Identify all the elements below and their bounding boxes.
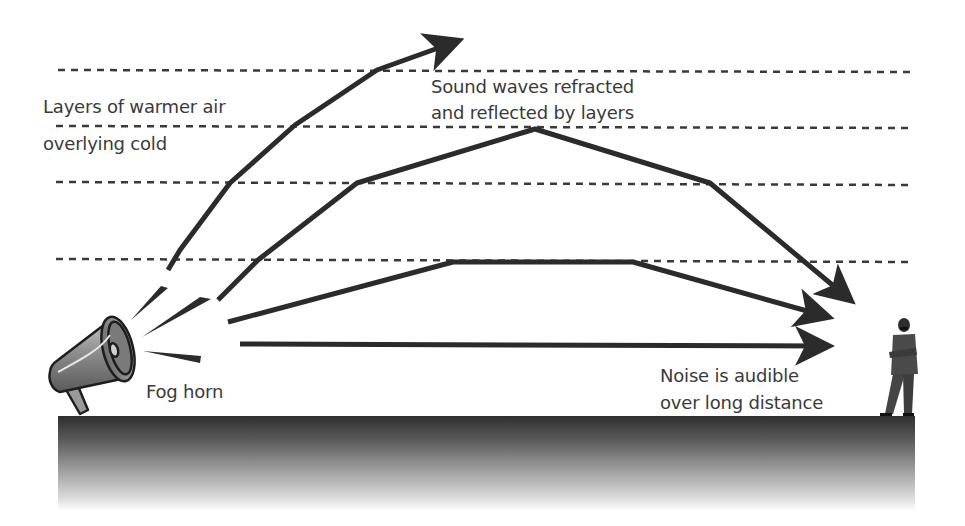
refraction-label-line2: and reflected by layers: [431, 99, 634, 126]
air-layer-line-2: [56, 126, 912, 128]
wave-arrow-escaping: [168, 42, 455, 270]
wave-arrow-reflected-low: [228, 262, 825, 322]
result-label-line2: over long distance: [660, 389, 823, 416]
wave-arrow-direct: [240, 344, 825, 346]
sound-refraction-diagram: Layers of warmer air overlying cold Soun…: [0, 0, 965, 526]
fog-horn-label: Fog horn: [146, 378, 223, 405]
person-figure: [880, 318, 918, 416]
air-layer-line-1: [58, 70, 912, 72]
result-label-line1: Noise is audible: [660, 362, 799, 389]
sound-emission-wedges: [131, 286, 211, 363]
wedge-3: [143, 351, 201, 363]
warm-layers-label-line1: Layers of warmer air: [43, 93, 225, 120]
warm-layers-label-line2: overlying cold: [43, 130, 167, 157]
wedge-2: [142, 297, 211, 337]
megaphone-icon: [49, 313, 140, 414]
refraction-label-line1: Sound waves refracted: [431, 73, 634, 100]
air-layer-line-3: [56, 182, 912, 185]
wave-arrow-reflected-high: [218, 129, 848, 300]
ground: [58, 416, 915, 511]
wedge-1: [131, 286, 168, 320]
